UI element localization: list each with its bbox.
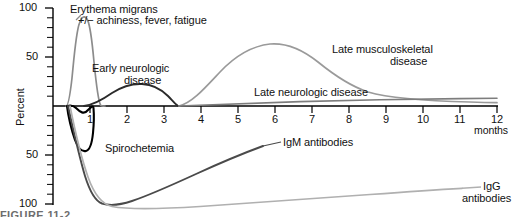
x-tick-label-5: 5 bbox=[235, 114, 241, 125]
chart-canvas bbox=[0, 0, 512, 217]
figure-caption: FIGURE 11-2 bbox=[0, 209, 512, 217]
series-label-early-neurologic-disease-line1: Early neurologic bbox=[92, 63, 169, 74]
x-tick-label-8: 8 bbox=[346, 114, 352, 125]
series-label-igg-antibodies-line1: IgG bbox=[483, 181, 500, 192]
series-label-spirochetemia: Spirochetemia bbox=[105, 143, 174, 154]
x-tick-label-3: 3 bbox=[161, 114, 167, 125]
leader-igm bbox=[263, 142, 281, 146]
series-label-igg-antibodies-line2: antibodies bbox=[462, 193, 511, 204]
x-ticks bbox=[90, 106, 497, 113]
series-label-early-neurologic-disease-line2: disease bbox=[124, 75, 161, 86]
series-label-late-neurologic-disease: Late neurologic disease bbox=[254, 87, 368, 98]
x-tick-label-11: 11 bbox=[454, 114, 465, 125]
series-label-igm-antibodies: IgM antibodies bbox=[283, 137, 353, 148]
y-tick-label-100-top: 100 bbox=[19, 2, 37, 13]
x-axis-units-label: months bbox=[474, 125, 508, 136]
y-axis-title: Percent bbox=[14, 88, 26, 126]
x-tick-label-9: 9 bbox=[383, 114, 389, 125]
y-tick-label-100-bottom: 100 bbox=[19, 198, 37, 209]
y-tick-label-50-upper: 50 bbox=[26, 51, 38, 62]
x-tick-label-6: 6 bbox=[272, 114, 278, 125]
x-tick-label-7: 7 bbox=[309, 114, 315, 125]
x-tick-label-1: 1 bbox=[87, 114, 93, 125]
series-label-late-musculoskeletal-disease-line2: disease bbox=[390, 56, 427, 67]
x-tick-label-4: 4 bbox=[198, 114, 204, 125]
x-tick-label-2: 2 bbox=[124, 114, 130, 125]
lyme-disease-clinical-course-chart: Percent 100 50 50 100 1 2 3 4 5 6 7 8 9 … bbox=[0, 0, 512, 217]
series-sublabel-erythema-migrans: +/− achiness, fever, fatigue bbox=[78, 15, 207, 26]
leader-igg bbox=[462, 187, 481, 188]
x-tick-label-10: 10 bbox=[417, 114, 429, 125]
y-tick-label-50-lower: 50 bbox=[26, 149, 38, 160]
y-minor-ticks bbox=[47, 18, 53, 194]
series-label-late-musculoskeletal-disease-line1: Late musculoskeletal bbox=[332, 44, 433, 55]
